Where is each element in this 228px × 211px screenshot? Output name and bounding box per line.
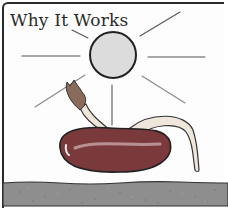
illustration-art: [0, 0, 228, 211]
illustration-title: Why It Works: [10, 10, 129, 30]
sun-icon: [90, 32, 136, 78]
leaf-sprout-icon: [66, 80, 85, 110]
bean-icon: [60, 128, 171, 173]
soil-icon: [3, 182, 228, 206]
